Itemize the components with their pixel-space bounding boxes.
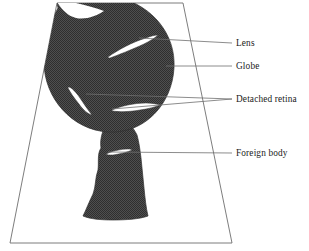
label-lens: Lens [236, 38, 255, 48]
eye-injury-diagram: Lens Globe Detached retina Foreign body [0, 0, 309, 251]
label-foreign-body: Foreign body [236, 148, 288, 158]
label-detached-retina: Detached retina [236, 94, 297, 104]
label-globe: Globe [236, 61, 259, 71]
figure-root: Lens Globe Detached retina Foreign body [0, 0, 309, 251]
